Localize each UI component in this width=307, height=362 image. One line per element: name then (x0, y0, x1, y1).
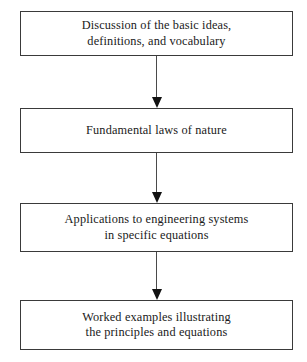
flowchart-node-label: Fundamental laws of nature (80, 123, 233, 139)
arrow-head-icon (152, 97, 162, 108)
flowchart-node-discussion: Discussion of the basic ideas, definitio… (20, 11, 293, 56)
arrow-stem (156, 56, 157, 98)
arrow-stem (156, 252, 157, 290)
flowchart-node-applications: Applications to engineering systems in s… (20, 203, 293, 252)
flowchart-node-label: Discussion of the basic ideas, definitio… (76, 18, 238, 49)
flowchart-node-worked-examples: Worked examples illustrating the princip… (20, 300, 293, 350)
flowchart-diagram: Discussion of the basic ideas, definitio… (0, 0, 307, 362)
arrow-head-icon (152, 289, 162, 300)
flowchart-node-label: Worked examples illustrating the princip… (76, 310, 237, 341)
flowchart-node-label: Applications to engineering systems in s… (59, 212, 255, 243)
flowchart-arrow-3 (149, 252, 165, 300)
arrow-stem (156, 153, 157, 193)
flowchart-node-fundamental-laws: Fundamental laws of nature (20, 108, 293, 153)
arrow-head-icon (152, 192, 162, 203)
flowchart-arrow-2 (149, 153, 165, 203)
flowchart-arrow-1 (149, 56, 165, 108)
